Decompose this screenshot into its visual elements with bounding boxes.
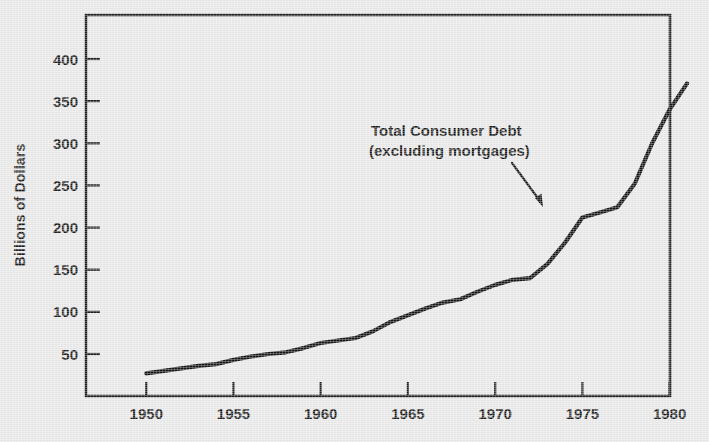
x-tick-label: 1950	[130, 405, 163, 422]
y-tick-label: 150	[53, 261, 78, 278]
x-tick-label: 1975	[566, 405, 599, 422]
y-tick-label: 300	[53, 135, 78, 152]
y-tick-label: 50	[61, 346, 78, 363]
y-axis-title: Billions of Dollars	[12, 144, 28, 267]
x-tick-label: 1960	[304, 405, 337, 422]
consumer-debt-line-chart: 400 350 300 250 200 150 100 50 Billions …	[0, 0, 709, 442]
y-tick-label: 250	[53, 177, 78, 194]
x-tick-label: 1980	[653, 405, 686, 422]
x-tick-label: 1970	[479, 405, 512, 422]
y-tick-label: 100	[53, 303, 78, 320]
x-tick-label: 1955	[217, 405, 250, 422]
x-axis-tick-labels: 1950 1955 1960 1965 1970 1975 1980	[130, 405, 687, 422]
y-tick-label: 350	[53, 93, 78, 110]
y-axis-tick-labels: 400 350 300 250 200 150 100 50	[53, 51, 78, 363]
annotation-line-1: Total Consumer Debt	[371, 122, 522, 139]
annotation-line-2: (excluding mortgages)	[369, 142, 530, 159]
plot-background	[86, 15, 670, 396]
y-tick-label: 200	[53, 219, 78, 236]
chart-page: 400 350 300 250 200 150 100 50 Billions …	[0, 0, 709, 442]
x-tick-label: 1965	[391, 405, 424, 422]
y-tick-label: 400	[53, 51, 78, 68]
